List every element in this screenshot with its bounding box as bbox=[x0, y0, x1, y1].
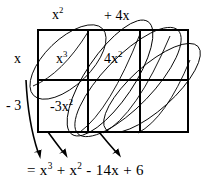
result-term-2: + x2 bbox=[53, 162, 83, 178]
left-label-minus-three: - 3 bbox=[6, 99, 21, 113]
top-label-plus-four-x: + 4x bbox=[104, 9, 129, 23]
arrow-2 bbox=[48, 132, 63, 152]
result-term-4: + 6 bbox=[119, 162, 144, 178]
sweep-4 bbox=[138, 60, 190, 133]
box-multiplication-diagram: x2 + 4x x - 3 x3 4x2 -3x2 = x3 + x2 - 14… bbox=[0, 0, 202, 190]
arrow-1 bbox=[26, 80, 38, 152]
result-expression: = x3 + x2 - 14x + 6 bbox=[27, 163, 144, 178]
diagonal-sweeps bbox=[33, 32, 190, 133]
result-equals-sign: = bbox=[27, 162, 36, 178]
result-term-3: - 14x bbox=[82, 162, 119, 178]
top-label-x-squared: x2 bbox=[52, 8, 63, 22]
oval-right-diagonal bbox=[91, 30, 202, 146]
cell-label-x-cubed: x3 bbox=[56, 52, 67, 66]
left-label-x: x bbox=[14, 52, 21, 66]
arrow-3 bbox=[99, 132, 116, 152]
cell-label-four-x-squared: 4x2 bbox=[104, 52, 122, 66]
result-term-1: x3 bbox=[36, 162, 53, 178]
result-arrows bbox=[26, 80, 116, 152]
cell-label-minus-three-x-squared: -3x2 bbox=[50, 100, 73, 114]
